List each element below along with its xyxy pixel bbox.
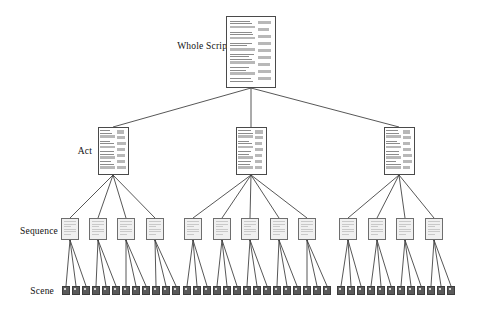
scene-node[interactable] xyxy=(313,286,321,295)
edge-act-to-sequence xyxy=(70,175,113,218)
sequence-node[interactable] xyxy=(270,218,288,240)
edge-act-to-sequence xyxy=(250,175,251,218)
scene-node[interactable] xyxy=(193,286,201,295)
scene-node[interactable] xyxy=(417,286,425,295)
page-text-line xyxy=(230,70,247,71)
scene-node[interactable] xyxy=(367,286,375,295)
page-text-line xyxy=(238,154,249,155)
sequence-node[interactable] xyxy=(117,218,135,240)
page-text-column-main xyxy=(238,130,253,171)
scene-node[interactable] xyxy=(162,286,170,295)
scene-node[interactable] xyxy=(233,286,241,295)
edge-act-to-sequence xyxy=(399,175,434,218)
scene-node[interactable] xyxy=(273,286,281,295)
scene-node[interactable] xyxy=(142,286,150,295)
scene-node[interactable] xyxy=(263,286,271,295)
page-text-block xyxy=(117,166,126,169)
scene-node[interactable] xyxy=(132,286,140,295)
page-text-line xyxy=(100,151,114,152)
edge-sequence-to-scene xyxy=(96,240,98,286)
scene-node[interactable] xyxy=(427,286,435,295)
scene-node[interactable] xyxy=(437,286,445,295)
scene-node[interactable] xyxy=(112,286,120,295)
page-text-columns xyxy=(238,130,264,171)
page-text-block xyxy=(117,148,125,151)
scene-node[interactable] xyxy=(92,286,100,295)
scene-node[interactable] xyxy=(203,286,211,295)
sequence-node[interactable] xyxy=(146,218,164,240)
act-node[interactable] xyxy=(98,127,129,175)
scene-node[interactable] xyxy=(397,286,405,295)
sequence-node[interactable] xyxy=(339,218,357,240)
scene-node[interactable] xyxy=(303,286,311,295)
act-node[interactable] xyxy=(236,127,267,175)
scene-node[interactable] xyxy=(152,286,160,295)
page-text-line xyxy=(100,143,113,144)
scene-node[interactable] xyxy=(293,286,301,295)
scene-node[interactable] xyxy=(357,286,365,295)
page-text-line xyxy=(238,133,252,134)
scene-node[interactable] xyxy=(62,286,70,295)
page-text-column-main xyxy=(386,130,401,171)
sequence-node[interactable] xyxy=(61,218,79,240)
scene-node[interactable] xyxy=(447,286,455,295)
act-node[interactable] xyxy=(384,127,415,175)
scene-node[interactable] xyxy=(387,286,395,295)
edge-act-to-sequence xyxy=(222,175,251,218)
edge-sequence-to-scene xyxy=(431,240,434,286)
page-text-column-side xyxy=(117,130,126,171)
page-text-block xyxy=(403,130,410,133)
page-text-block xyxy=(386,146,401,149)
sequence-node-texture xyxy=(301,221,313,237)
scene-node[interactable] xyxy=(253,286,261,295)
scene-node[interactable] xyxy=(223,286,231,295)
scene-node[interactable] xyxy=(323,286,331,295)
sequence-node[interactable] xyxy=(396,218,414,240)
scene-node[interactable] xyxy=(377,286,385,295)
sequence-node[interactable] xyxy=(184,218,202,240)
page-text-block xyxy=(238,135,253,138)
page-text-block xyxy=(238,156,253,159)
edge-act-to-sequence xyxy=(251,175,307,218)
page-text-block xyxy=(258,28,269,32)
page-text-column-main xyxy=(100,130,115,171)
page-text-block xyxy=(403,166,409,169)
scene-node[interactable] xyxy=(172,286,180,295)
whole-script-node[interactable] xyxy=(226,16,276,88)
sequence-node[interactable] xyxy=(213,218,231,240)
scene-node[interactable] xyxy=(283,286,291,295)
sequence-node[interactable] xyxy=(298,218,316,240)
edge-sequence-to-scene xyxy=(307,240,327,286)
scene-node[interactable] xyxy=(243,286,251,295)
sequence-node[interactable] xyxy=(241,218,259,240)
page-text-block xyxy=(255,142,262,145)
page-text-line xyxy=(230,32,253,33)
scene-node[interactable] xyxy=(337,286,345,295)
page-text-columns xyxy=(100,130,126,171)
scene-node[interactable] xyxy=(183,286,191,295)
scene-node[interactable] xyxy=(347,286,355,295)
page-text-block xyxy=(258,77,271,81)
edge-sequence-to-scene xyxy=(126,240,146,286)
sequence-node[interactable] xyxy=(89,218,107,240)
page-text-block xyxy=(255,154,262,157)
edge-sequence-to-scene xyxy=(98,240,116,286)
sequence-node-texture xyxy=(273,221,285,237)
page-text-block xyxy=(403,154,411,157)
sequence-node[interactable] xyxy=(425,218,443,240)
scene-node[interactable] xyxy=(82,286,90,295)
scene-node[interactable] xyxy=(213,286,221,295)
page-text-block xyxy=(117,154,125,157)
edge-sequence-to-scene xyxy=(377,240,381,286)
scene-node[interactable] xyxy=(122,286,130,295)
page-text-column-main xyxy=(230,21,255,84)
page-text-block xyxy=(238,146,253,149)
scene-node[interactable] xyxy=(102,286,110,295)
scene-node[interactable] xyxy=(407,286,415,295)
sequence-node-texture xyxy=(64,221,76,237)
page-text-line xyxy=(230,78,252,79)
scene-node[interactable] xyxy=(72,286,80,295)
page-text-block xyxy=(230,48,255,51)
sequence-node[interactable] xyxy=(368,218,386,240)
diagram-canvas: Whole Script Act Sequence Scene xyxy=(0,0,480,314)
